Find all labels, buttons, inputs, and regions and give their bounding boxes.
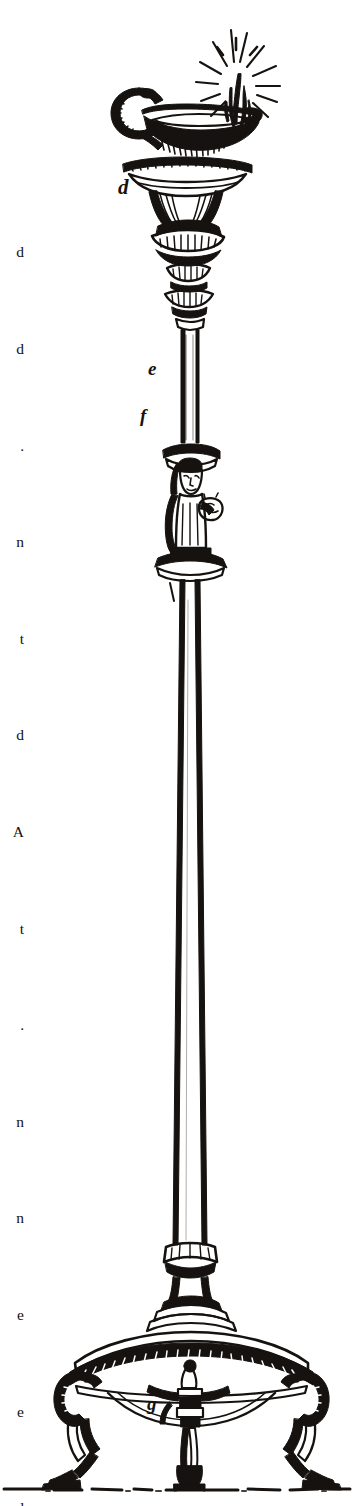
base-mouldings (147, 1243, 236, 1331)
collar-disc (155, 552, 227, 601)
figure-label-e: e (148, 359, 156, 378)
engraving-page: d d . n t d A t . n n e e d r t e e e , … (0, 0, 354, 1506)
caryatid-face (184, 476, 199, 491)
torus-hatching (160, 235, 216, 251)
knop-mouldings (165, 264, 213, 330)
beaded-saucer (123, 157, 252, 196)
animal-head-left-icon (54, 1372, 102, 1426)
figure-label-f: f (140, 406, 146, 425)
tripod-leg-center (147, 1360, 230, 1491)
hoof-foot-center (177, 1466, 203, 1484)
figure-label-d: d (118, 177, 129, 198)
flame-rays-icon-short (217, 38, 257, 55)
animal-head-right-icon (281, 1372, 329, 1426)
caryatid-figure (163, 444, 223, 556)
figure-label-g: g (147, 1394, 157, 1413)
calyx-capital (149, 191, 224, 266)
candelabrum-drawing (0, 0, 354, 1506)
tripod-platform (70, 1332, 313, 1426)
drapery-folds (182, 503, 198, 545)
ground-line (4, 1489, 350, 1490)
lower-shaft (173, 580, 207, 1245)
candelabrum-illustration (0, 0, 354, 1506)
upper-shaft (181, 330, 199, 443)
